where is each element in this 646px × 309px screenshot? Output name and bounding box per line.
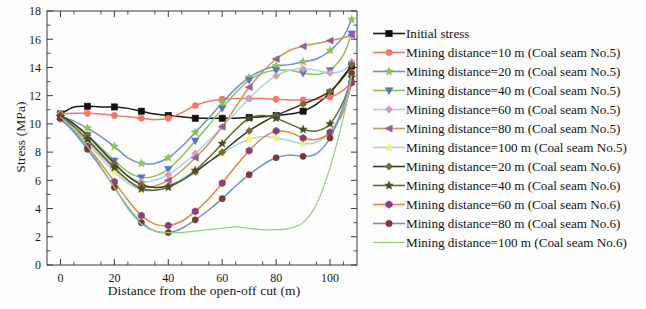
legend-item[interactable]: Mining distance=60 m (Coal seam No.5) <box>372 100 646 119</box>
series-1 <box>57 78 354 121</box>
data-marker <box>138 212 144 219</box>
data-marker <box>273 72 280 79</box>
data-marker <box>300 134 306 141</box>
data-marker <box>385 67 393 75</box>
legend-marker-icon <box>372 62 406 81</box>
data-marker <box>385 163 392 170</box>
legend-label: Mining distance=80 m (Coal seam No.5) <box>406 119 620 138</box>
y-tick-label: 12 <box>29 89 41 103</box>
series-line <box>60 65 351 188</box>
legend-item[interactable]: Mining distance=100 m (Coal seam No.6) <box>372 233 646 252</box>
legend-label: Mining distance=10 m (Coal seam No.5) <box>406 43 620 62</box>
data-marker <box>138 115 144 121</box>
legend-item[interactable]: Mining distance=80 m (Coal seam No.5) <box>372 119 646 138</box>
series-line <box>60 79 351 191</box>
data-marker <box>192 208 198 215</box>
data-marker <box>299 43 306 50</box>
data-marker <box>111 104 117 110</box>
data-marker <box>165 115 171 121</box>
series-0 <box>57 63 354 121</box>
data-marker <box>300 153 306 159</box>
plot-canvas: 020406080100024681012141618 <box>0 0 372 309</box>
y-tick-label: 8 <box>35 145 41 159</box>
plot-panel: 020406080100024681012141618 Distance fro… <box>0 0 372 309</box>
y-tick-label: 18 <box>29 4 41 18</box>
data-marker <box>138 108 144 114</box>
legend-marker-icon <box>372 233 406 252</box>
data-marker <box>348 15 356 23</box>
legend-item[interactable]: Mining distance=40 m (Coal seam No.6) <box>372 176 646 195</box>
legend-item[interactable]: Mining distance=100 m (Coal seam No.5) <box>372 138 646 157</box>
series-6 <box>56 74 355 193</box>
series-8 <box>56 73 355 192</box>
data-marker <box>327 135 333 141</box>
data-marker <box>246 147 252 154</box>
plot-frame <box>47 11 357 265</box>
legend-item[interactable]: Mining distance=20 m (Coal seam No.6) <box>372 157 646 176</box>
data-marker <box>385 125 392 132</box>
data-marker <box>349 70 355 76</box>
data-marker <box>300 108 306 114</box>
data-marker <box>386 220 392 226</box>
legend-item[interactable]: Mining distance=20 m (Coal seam No.5) <box>372 62 646 81</box>
legend-marker-icon <box>372 157 406 176</box>
data-marker <box>386 30 392 36</box>
y-axis-title: Stress (MPa) <box>13 72 29 202</box>
chart-figure: 020406080100024681012141618 Distance fro… <box>0 0 646 309</box>
data-marker <box>219 115 225 121</box>
legend-label: Mining distance=60 m (Coal seam No.6) <box>406 195 620 214</box>
data-marker <box>273 155 279 161</box>
legend-label: Mining distance=40 m (Coal seam No.6) <box>406 176 620 195</box>
y-tick-label: 2 <box>35 230 41 244</box>
x-axis-title: Distance from the open-off cut (m) <box>48 283 360 299</box>
data-marker <box>385 106 392 113</box>
y-tick-label: 14 <box>29 61 41 75</box>
data-marker <box>192 102 198 108</box>
legend-item[interactable]: Mining distance=10 m (Coal seam No.5) <box>372 43 646 62</box>
data-marker <box>84 110 90 116</box>
legend-marker-icon <box>372 195 406 214</box>
legend-marker-icon <box>372 100 406 119</box>
data-marker <box>273 127 279 134</box>
legend-marker-icon <box>372 176 406 195</box>
legend-item[interactable]: Initial stress <box>372 24 646 43</box>
data-marker <box>386 201 392 208</box>
data-marker <box>137 159 145 167</box>
y-tick-label: 4 <box>35 202 41 216</box>
data-marker <box>385 143 393 151</box>
legend-marker-icon <box>372 119 406 138</box>
legend-label: Mining distance=60 m (Coal seam No.5) <box>406 100 620 119</box>
data-marker <box>165 222 171 229</box>
data-marker <box>326 37 333 44</box>
legend-item[interactable]: Mining distance=40 m (Coal seam No.5) <box>372 81 646 100</box>
legend-label: Mining distance=40 m (Coal seam No.5) <box>406 81 620 100</box>
legend-label: Mining distance=20 m (Coal seam No.6) <box>406 157 620 176</box>
data-marker <box>219 196 225 202</box>
legend-marker-icon <box>372 138 406 157</box>
data-marker <box>192 217 198 223</box>
series-7 <box>57 61 355 190</box>
legend-marker-icon <box>372 214 406 233</box>
legend-marker-icon <box>372 81 406 100</box>
y-tick-label: 16 <box>29 33 41 47</box>
legend-marker-icon <box>372 43 406 62</box>
data-marker <box>246 172 252 178</box>
series-line <box>60 19 351 164</box>
series-line <box>60 82 351 120</box>
data-marker <box>326 69 333 76</box>
data-marker <box>299 125 307 133</box>
y-tick-label: 6 <box>35 174 41 188</box>
data-marker <box>192 115 198 121</box>
legend-item[interactable]: Mining distance=60 m (Coal seam No.6) <box>372 195 646 214</box>
data-marker <box>219 180 225 187</box>
y-tick-label: 0 <box>35 258 41 272</box>
legend-label: Initial stress <box>406 24 469 43</box>
y-tick-label: 10 <box>29 117 41 131</box>
data-marker <box>245 135 253 143</box>
legend-label: Mining distance=100 m (Coal seam No.5) <box>406 138 627 157</box>
data-marker <box>386 49 392 55</box>
data-marker <box>111 112 117 118</box>
legend-item[interactable]: Mining distance=80 m (Coal seam No.6) <box>372 214 646 233</box>
data-marker <box>245 84 252 91</box>
chart-legend: Initial stressMining distance=10 m (Coal… <box>372 24 646 252</box>
